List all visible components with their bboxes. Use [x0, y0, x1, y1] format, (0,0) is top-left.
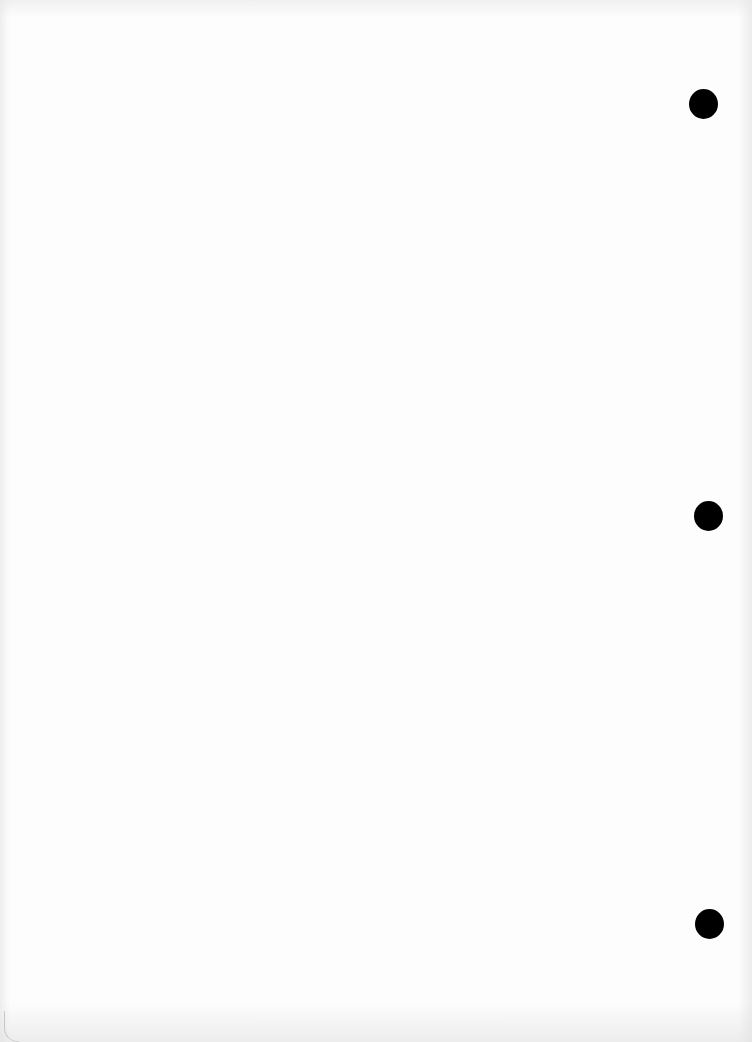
punch-hole-bottom	[695, 909, 724, 939]
page-corner-curl	[4, 1011, 19, 1042]
punch-hole-middle	[694, 501, 723, 531]
blank-scanned-page	[0, 0, 752, 1042]
punch-hole-top	[689, 89, 718, 119]
